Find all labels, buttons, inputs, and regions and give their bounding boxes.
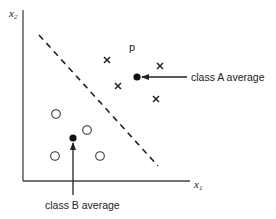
diagram-canvas: x2 x1 p class A average: [0, 0, 276, 219]
y-axis-label: x2: [8, 7, 18, 21]
class-a-points: [104, 57, 163, 102]
x-axis-label: x1: [193, 178, 202, 192]
class-a-average-dot: [133, 73, 140, 80]
circle-marker: [51, 152, 60, 161]
class-b-points: [51, 110, 105, 161]
class-a-average-label: class A average: [191, 71, 265, 83]
cross-marker: [104, 57, 110, 63]
circle-marker: [83, 126, 92, 135]
circle-marker: [52, 110, 61, 119]
circle-marker: [96, 152, 105, 161]
class-b-average-label: class B average: [45, 199, 120, 211]
scatter-diagram: x2 x1 p class A average: [0, 0, 276, 219]
axes: x2 x1: [8, 7, 202, 192]
cross-marker: [153, 96, 159, 102]
cross-marker: [157, 63, 163, 69]
class-b-average-dot: [69, 134, 76, 141]
cross-marker: [115, 83, 121, 89]
decision-boundary: [39, 35, 158, 166]
point-p-label: p: [129, 41, 135, 53]
